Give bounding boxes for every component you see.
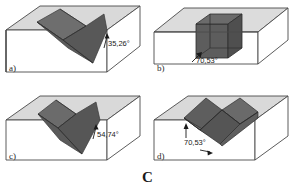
panel-letter-a: a) xyxy=(9,64,16,73)
panel-c: c) 54,74° xyxy=(0,88,147,176)
angle-label-c: 54,74° xyxy=(97,131,119,139)
figure-root: a) 35,26° b) 70,53° xyxy=(0,0,295,192)
panel-c-drawing xyxy=(0,88,147,176)
angle-label-b: 70,53° xyxy=(196,57,218,65)
figure-caption: C xyxy=(0,170,295,185)
angle-label-a: 35,26° xyxy=(108,40,130,48)
panel-d-drawing xyxy=(148,88,295,176)
panel-a: a) 35,26° xyxy=(0,0,147,88)
panel-letter-b: b) xyxy=(157,64,165,73)
panel-b-drawing xyxy=(148,0,295,88)
panel-letter-c: c) xyxy=(9,152,16,161)
panel-b: b) 70,53° xyxy=(148,0,295,88)
panel-letter-d: d) xyxy=(157,152,165,161)
panel-d: d) 70,53° xyxy=(148,88,295,176)
angle-label-d: 70,53° xyxy=(184,139,206,147)
